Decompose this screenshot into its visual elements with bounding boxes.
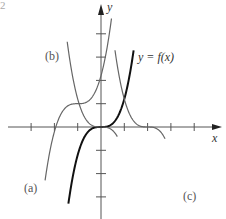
y-axis-arrow-icon bbox=[98, 4, 104, 15]
curve-b-label: (b) bbox=[45, 50, 59, 62]
x-axis-label: x bbox=[212, 132, 217, 144]
y-axis-label: y bbox=[107, 1, 112, 13]
axes bbox=[8, 4, 222, 219]
curves bbox=[45, 18, 165, 203]
curve-b bbox=[67, 42, 117, 137]
curve-a-label: (a) bbox=[24, 182, 37, 194]
x-axis-arrow-icon bbox=[212, 124, 222, 130]
curve-c-label: (c) bbox=[183, 190, 196, 202]
f-curve-label: y = f(x) bbox=[138, 51, 174, 63]
